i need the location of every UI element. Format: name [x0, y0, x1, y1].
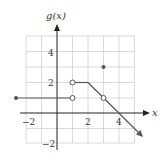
open-point-1-1 [70, 96, 75, 101]
open-point-3-1 [101, 96, 106, 101]
y-axis-label: g(x) [46, 10, 66, 21]
tick-y-neg2: −2 [42, 139, 55, 149]
graph-plot: g(x) x −2 2 4 4 2 −2 [0, 0, 164, 164]
tick-y-4: 4 [48, 48, 54, 58]
closed-point-left [14, 96, 18, 100]
axes [20, 28, 146, 150]
closed-point-3-3 [102, 65, 106, 69]
tick-y-2: 2 [48, 78, 54, 88]
tick-x-neg2: −2 [22, 117, 35, 127]
tick-x-4: 4 [116, 117, 122, 127]
open-point-1-2 [70, 80, 75, 85]
x-axis-arrow-icon [143, 110, 150, 116]
x-axis-label: x [152, 107, 158, 118]
segment-descending [88, 83, 140, 135]
tick-x-2: 2 [85, 117, 91, 127]
y-axis-arrow-icon [54, 24, 60, 31]
